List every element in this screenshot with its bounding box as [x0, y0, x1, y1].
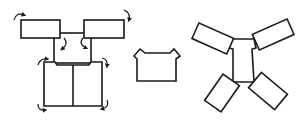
fold-arrow-icon — [124, 10, 129, 20]
diagram-svg — [0, 0, 306, 121]
top-right-flap — [84, 20, 124, 38]
fold-arrow-icon — [102, 100, 108, 109]
top-left-flap — [21, 20, 60, 38]
center-body — [229, 39, 256, 82]
folded-box-outline — [134, 49, 180, 81]
upper-right-flap — [252, 19, 294, 50]
diagram-canvas — [0, 0, 306, 121]
upper-left-flap — [192, 23, 234, 54]
panel-folded-shape — [134, 49, 180, 81]
fold-arrow-icon — [14, 14, 24, 20]
panel-rotated-flaps — [192, 19, 294, 112]
panel-unfolded-net — [14, 10, 129, 110]
